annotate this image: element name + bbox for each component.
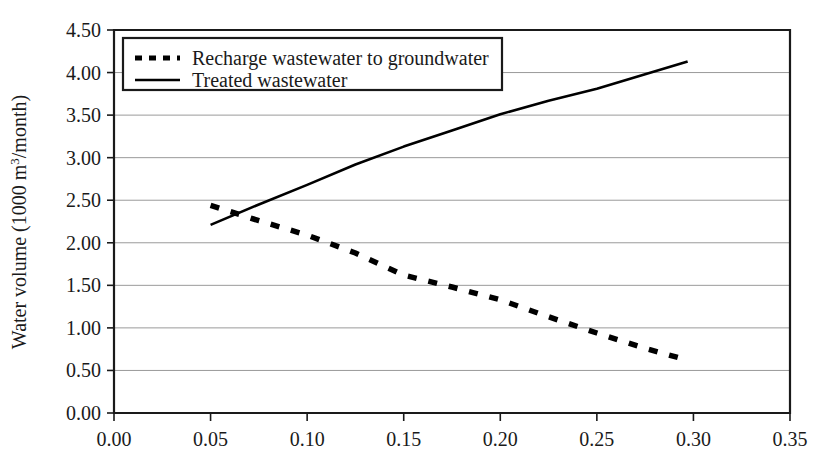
- x-axis-tick-label: 0.35: [773, 428, 808, 450]
- y-axis-title: Water volume (1000 m3/month): [7, 95, 31, 349]
- y-axis-title-after: /month): [8, 95, 31, 158]
- x-axis-tick-label: 0.00: [97, 428, 132, 450]
- x-axis-tick-labels: 0.000.050.100.150.200.250.300.35: [97, 428, 808, 450]
- x-axis-tick-label: 0.05: [193, 428, 228, 450]
- svg-text:Water volume (1000 m3/month): Water volume (1000 m3/month): [7, 95, 31, 349]
- y-axis-title-before: Water volume (1000 m: [8, 164, 31, 349]
- legend-label-recharge: Recharge wastewater to groundwater: [192, 47, 489, 70]
- y-axis-tick-label: 3.50: [66, 104, 101, 126]
- x-axis-tick-label: 0.15: [386, 428, 421, 450]
- x-axis-tick-label: 0.10: [290, 428, 325, 450]
- y-axis-tick-label: 1.50: [66, 274, 101, 296]
- y-axis-tick-label: 0.50: [66, 359, 101, 381]
- line-chart: 0.000.501.001.502.002.503.003.504.004.50…: [0, 0, 837, 472]
- chart-figure: 0.000.501.001.502.002.503.003.504.004.50…: [0, 0, 837, 472]
- y-axis-tick-label: 4.00: [66, 62, 101, 84]
- x-axis-tick-label: 0.20: [483, 428, 518, 450]
- y-axis-tick-label: 2.50: [66, 189, 101, 211]
- x-axis-tick-label: 0.30: [676, 428, 711, 450]
- y-axis-tick-label: 3.00: [66, 147, 101, 169]
- y-axis-tick-label: 4.50: [66, 19, 101, 41]
- x-axis-tick-label: 0.25: [579, 428, 614, 450]
- x-axis-ticks: [114, 413, 790, 421]
- y-axis-tick-label: 0.00: [66, 402, 101, 424]
- legend-label-treated: Treated wastewater: [192, 69, 348, 91]
- y-axis-tick-label: 2.00: [66, 232, 101, 254]
- y-axis-tick-labels: 0.000.501.001.502.002.503.003.504.004.50: [66, 19, 101, 424]
- y-axis-tick-label: 1.00: [66, 317, 101, 339]
- legend[interactable]: Recharge wastewater to groundwater Treat…: [123, 38, 502, 91]
